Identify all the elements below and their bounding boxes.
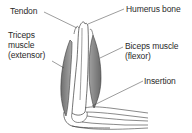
label-triceps-muscle: Triceps muscle (extensor) [8,30,45,60]
triceps-leader [52,61,64,68]
biceps-leader [100,47,123,58]
biceps-muscle [89,35,101,108]
humerus-leader [88,9,124,24]
humerus-bone [72,22,88,115]
elbow-joint [64,112,110,128]
tendon-leader [44,12,77,28]
arm-diagram [0,0,192,133]
label-insertion: Insertion [144,76,176,86]
label-biceps-line2: (flexor) [125,51,179,61]
label-tendon: Tendon [10,6,37,16]
label-triceps-line1: Triceps [8,30,45,40]
label-biceps-muscle: Biceps muscle (flexor) [125,41,179,61]
label-biceps-line1: Biceps muscle [125,41,179,51]
label-triceps-line3: (extensor) [8,50,45,60]
label-humerus-bone: Humerus bone [126,4,181,14]
label-triceps-line2: muscle [8,40,45,50]
triceps-muscle [61,40,72,116]
